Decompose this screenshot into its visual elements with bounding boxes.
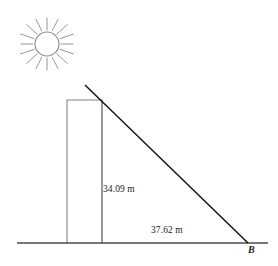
sun-disc-icon bbox=[35, 32, 59, 56]
diagram-svg bbox=[0, 0, 278, 266]
height-measurement-label: 34.09 m bbox=[103, 184, 135, 194]
tower-rectangle bbox=[67, 100, 102, 243]
figure-canvas: 34.09 m 37.62 m B bbox=[0, 0, 278, 266]
sun-icon bbox=[21, 18, 74, 70]
tower-outline bbox=[67, 100, 102, 243]
sun-rays-icon bbox=[21, 18, 74, 70]
point-b-label: B bbox=[248, 244, 255, 255]
shadow-hypotenuse-line bbox=[85, 85, 248, 243]
base-measurement-label: 37.62 m bbox=[151, 225, 183, 235]
